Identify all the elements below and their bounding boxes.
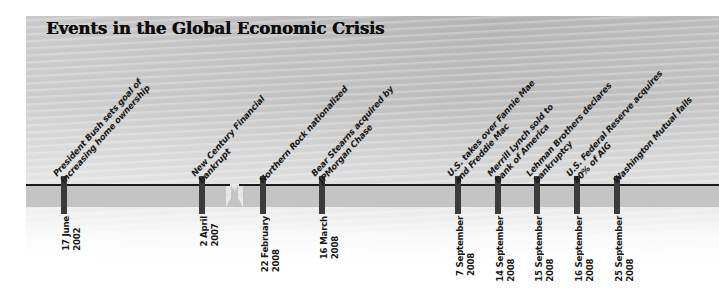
timeline-band-right [243, 185, 719, 207]
event-date-day: 25 September [614, 216, 624, 282]
event-date: 22 February2008 [260, 216, 281, 272]
event-date-year: 2008 [585, 216, 595, 282]
event-date-day: 14 September [495, 216, 505, 282]
event-date: 16 September2008 [574, 216, 595, 282]
event-date-year: 2008 [506, 216, 516, 282]
event-date-year: 2008 [271, 216, 281, 272]
event-date: 7 September2008 [455, 216, 476, 276]
event-date-year: 2008 [330, 216, 340, 259]
event-date-day: 17 June [61, 216, 71, 251]
event-date-day: 16 September [574, 216, 584, 282]
event-date: 16 March2008 [319, 216, 340, 259]
timeline-band-left [26, 185, 226, 207]
event-date-day: 22 February [260, 216, 270, 272]
event-date-day: 15 September [534, 216, 544, 282]
event-date-day: 7 September [455, 216, 465, 276]
event-date-year: 2008 [545, 216, 555, 282]
event-date-day: 16 March [319, 216, 329, 259]
event-date-year: 2007 [210, 216, 220, 247]
event-date-day: 2 April [199, 216, 209, 247]
page-title: Events in the Global Economic Crisis [46, 19, 384, 38]
event-date: 2 April2007 [199, 216, 220, 247]
timeline-axis-line-right [239, 184, 719, 186]
event-date: 14 September2008 [495, 216, 516, 282]
event-date: 25 September2008 [614, 216, 635, 282]
event-date: 15 September2008 [534, 216, 555, 282]
event-date-year: 2002 [72, 216, 82, 251]
event-date-year: 2008 [625, 216, 635, 282]
event-date: 17 June2002 [61, 216, 82, 251]
event-date-year: 2008 [466, 216, 476, 276]
